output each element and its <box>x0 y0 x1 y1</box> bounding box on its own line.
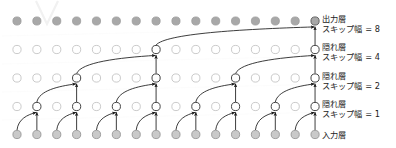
node-hidden-1-6 <box>132 102 140 110</box>
node-output-8 <box>172 17 180 25</box>
layer-label-hidden-4: 隠れ層 スキップ幅 = 4 <box>322 42 380 62</box>
layer-label-output-main: 出力層 <box>322 14 380 24</box>
node-hidden-2-0 <box>13 74 21 82</box>
edge-curve-l4c12-to-l3c13 <box>255 112 274 130</box>
node-hidden-4-8 <box>172 45 180 53</box>
node-hidden-1-4 <box>92 102 100 110</box>
node-output-6 <box>132 17 140 25</box>
node-output-0 <box>13 17 21 25</box>
node-hidden-1-11 <box>231 102 239 110</box>
layer-label-hidden-1-sub: スキップ幅 = 1 <box>322 109 380 119</box>
node-output-2 <box>53 17 61 25</box>
node-input-8 <box>172 130 180 138</box>
node-output-4 <box>92 17 100 25</box>
node-hidden-2-1 <box>33 74 41 82</box>
node-input-10 <box>212 130 220 138</box>
node-input-5 <box>112 130 120 138</box>
node-hidden-2-7 <box>152 74 160 82</box>
edge-curve-l3c5-to-l2c7 <box>116 84 155 102</box>
edge-curve-l1c7-to-l0c15 <box>156 27 314 45</box>
node-hidden-1-3 <box>73 102 81 110</box>
layer-label-hidden-1-main: 隠れ層 <box>322 99 380 109</box>
node-input-2 <box>53 130 61 138</box>
node-hidden-1-5 <box>112 102 120 110</box>
node-hidden-4-6 <box>132 45 140 53</box>
node-output-7 <box>152 17 160 25</box>
node-output-13 <box>271 17 279 25</box>
node-input-6 <box>132 130 140 138</box>
node-hidden-2-10 <box>212 74 220 82</box>
node-hidden-1-7 <box>152 102 160 110</box>
node-hidden-1-8 <box>172 102 180 110</box>
node-hidden-1-13 <box>271 102 279 110</box>
node-input-1 <box>33 130 41 138</box>
node-output-9 <box>192 17 200 25</box>
layer-label-hidden-2-main: 隠れ層 <box>322 71 380 81</box>
node-output-11 <box>231 17 239 25</box>
node-hidden-2-2 <box>53 74 61 82</box>
nodes-group <box>13 17 319 139</box>
node-output-5 <box>112 17 120 25</box>
node-hidden-4-4 <box>92 45 100 53</box>
node-hidden-2-4 <box>92 74 100 82</box>
node-output-15 <box>311 17 319 25</box>
node-hidden-2-13 <box>271 74 279 82</box>
edge-curve-l2c3-to-l1c7 <box>77 55 156 73</box>
edges-group <box>17 27 315 130</box>
node-hidden-1-2 <box>53 102 61 110</box>
background-watermark <box>2 1 330 120</box>
layer-label-hidden-1: 隠れ層 スキップ幅 = 1 <box>322 99 380 119</box>
edge-curve-l4c14-to-l3c15 <box>295 112 314 130</box>
node-hidden-2-15 <box>311 74 319 82</box>
node-hidden-4-7 <box>152 45 160 53</box>
node-output-12 <box>251 17 259 25</box>
node-hidden-1-0 <box>13 102 21 110</box>
node-hidden-4-10 <box>212 45 220 53</box>
node-hidden-4-13 <box>271 45 279 53</box>
edge-curve-l3c1-to-l2c3 <box>37 84 76 102</box>
edge-curve-l4c2-to-l3c3 <box>57 112 76 130</box>
layer-label-hidden-2: 隠れ層 スキップ幅 = 2 <box>322 71 380 91</box>
node-hidden-1-9 <box>192 102 200 110</box>
layer-label-input-main: 入力層 <box>322 130 346 140</box>
node-hidden-1-15 <box>311 102 319 110</box>
edge-curve-l4c0-to-l3c1 <box>17 112 36 130</box>
figure-canvas: 出力層 スキップ幅 = 8 隠れ層 スキップ幅 = 4 隠れ層 スキップ幅 = … <box>0 0 396 148</box>
edge-curve-l3c13-to-l2c15 <box>275 84 314 102</box>
node-hidden-2-12 <box>251 74 259 82</box>
node-input-15 <box>311 130 319 138</box>
node-hidden-2-8 <box>172 74 180 82</box>
node-hidden-4-1 <box>33 45 41 53</box>
node-output-14 <box>291 17 299 25</box>
node-input-3 <box>73 130 81 138</box>
node-input-14 <box>291 130 299 138</box>
node-input-0 <box>13 130 21 138</box>
node-hidden-4-0 <box>13 45 21 53</box>
node-output-1 <box>33 17 41 25</box>
node-hidden-1-1 <box>33 102 41 110</box>
node-hidden-2-5 <box>112 74 120 82</box>
node-hidden-4-11 <box>231 45 239 53</box>
node-output-10 <box>212 17 220 25</box>
layer-label-hidden-4-sub: スキップ幅 = 4 <box>322 52 380 62</box>
layer-label-hidden-2-sub: スキップ幅 = 2 <box>322 81 380 91</box>
node-hidden-4-12 <box>251 45 259 53</box>
node-hidden-4-14 <box>291 45 299 53</box>
layer-label-input: 入力層 <box>322 130 346 140</box>
node-hidden-1-14 <box>291 102 299 110</box>
node-input-11 <box>231 130 239 138</box>
edge-curve-l4c4-to-l3c5 <box>96 112 115 130</box>
edge-curve-l4c6-to-l3c7 <box>136 112 155 130</box>
node-input-4 <box>92 130 100 138</box>
node-hidden-4-9 <box>192 45 200 53</box>
node-input-13 <box>271 130 279 138</box>
node-hidden-4-3 <box>73 45 81 53</box>
node-hidden-4-2 <box>53 45 61 53</box>
node-hidden-2-9 <box>192 74 200 82</box>
node-hidden-4-5 <box>112 45 120 53</box>
layer-label-output: 出力層 スキップ幅 = 8 <box>322 14 380 34</box>
node-hidden-1-10 <box>212 102 220 110</box>
node-hidden-2-11 <box>231 74 239 82</box>
layer-label-hidden-4-main: 隠れ層 <box>322 42 380 52</box>
node-output-3 <box>73 17 81 25</box>
